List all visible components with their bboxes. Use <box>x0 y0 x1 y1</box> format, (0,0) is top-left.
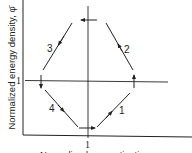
diagram-canvas <box>0 0 192 153</box>
segment-1-arrow-icon <box>106 112 112 119</box>
segment-4-label: 4 <box>49 104 55 114</box>
y-axis-label: Normalized energy density, φ̄ <box>6 4 18 132</box>
horizontal-reference-line <box>25 81 168 83</box>
segment-3-arrow-icon <box>59 36 65 45</box>
y-tick-1: 1 <box>16 76 21 86</box>
segment-3-label: 3 <box>47 44 53 54</box>
segment-1-label: 1 <box>119 106 125 116</box>
energy-cycle-diagram: Normalized energy density, φ̄ 1 1 3 2 4 … <box>0 0 192 153</box>
segment-2-arrow-icon <box>118 44 122 51</box>
segment-2-label: 2 <box>124 45 130 55</box>
segment-4-arrow-icon <box>58 105 64 112</box>
x-axis <box>23 135 192 137</box>
segment-1 <box>97 93 130 127</box>
x-axis-label: Normalized magnetization, m <box>40 149 190 153</box>
